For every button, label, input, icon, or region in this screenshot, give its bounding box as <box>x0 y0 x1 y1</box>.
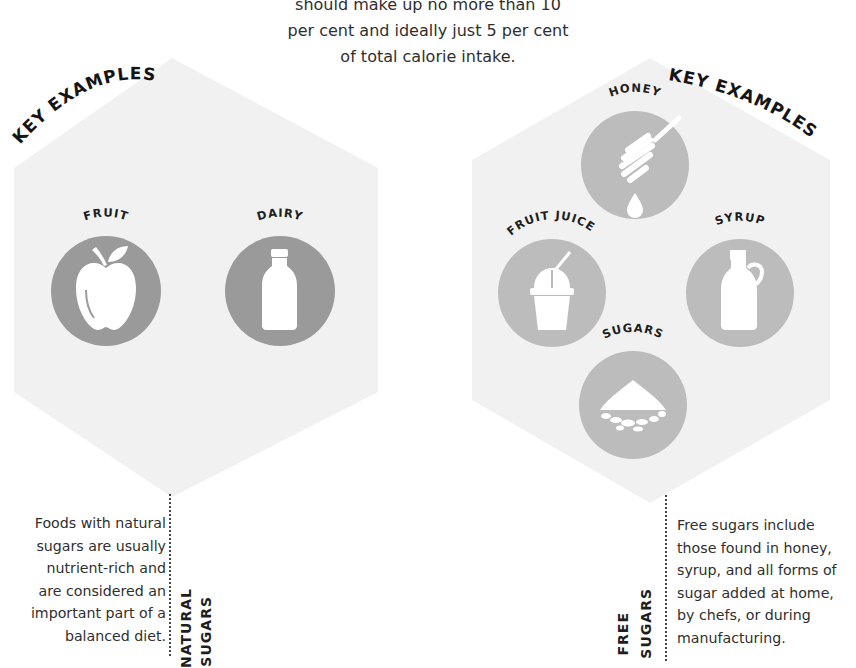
description-line: Foods with natural <box>31 512 166 535</box>
description-line: Free sugars include <box>677 514 837 537</box>
free-sugars-description: Free sugars include those found in honey… <box>677 514 837 650</box>
description-line: sugars are usually <box>31 535 166 558</box>
description-line: balanced diet. <box>31 625 166 648</box>
description-line: are considered an <box>31 580 166 603</box>
description-line: syrup, and all forms of <box>677 559 837 582</box>
natural-divider-dotted-line <box>169 494 171 656</box>
free-divider-dotted-line <box>665 495 667 661</box>
description-line: those found in honey, <box>677 537 837 560</box>
description-line: important part of a <box>31 602 166 625</box>
description-line: sugar added at home, <box>677 582 837 605</box>
description-line: manufacturing. <box>677 627 837 650</box>
natural-sugars-description: Foods with natural sugars are usually nu… <box>31 512 166 648</box>
natural-title-line2: SUGARS <box>198 596 214 667</box>
description-line: by chefs, or during <box>677 604 837 627</box>
free-title-line1: FREE <box>615 612 631 655</box>
description-line: nutrient-rich and <box>31 557 166 580</box>
natural-title-line1: NATURAL <box>178 588 194 668</box>
free-title-line2: SUGARS <box>638 588 654 659</box>
